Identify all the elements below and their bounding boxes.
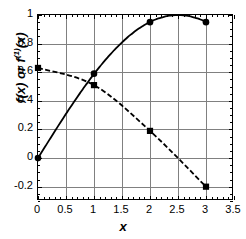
y-tick-label: 0.2 [0, 121, 33, 133]
data-point-marker [35, 155, 42, 162]
data-point-marker [147, 128, 153, 134]
y-axis-label-superscript: (1) [12, 48, 21, 58]
y-tick-label: 1 [0, 7, 33, 19]
axis-tick [234, 15, 235, 19]
axis-tick [230, 201, 233, 202]
curve-f [38, 15, 206, 158]
x-tick-label: 3.5 [213, 203, 246, 215]
y-tick-label: 0.4 [0, 93, 33, 105]
plot-area [37, 14, 233, 200]
axis-tick [38, 201, 41, 202]
y-tick-label: 0.6 [0, 64, 33, 76]
data-point-marker [203, 19, 210, 26]
data-point-marker [91, 70, 98, 77]
x-axis-label: x [0, 219, 246, 234]
data-point-marker [203, 184, 209, 190]
curve-f-derivative [38, 68, 206, 187]
y-tick-label: 0 [0, 150, 33, 162]
data-point-marker [147, 19, 154, 26]
data-curves [38, 15, 234, 201]
data-point-marker [35, 65, 41, 71]
data-point-marker [91, 82, 97, 88]
y-tick-label: 0.8 [0, 36, 33, 48]
chart-figure: f(x) or f(1)(x) x 00.511.522.533.5 10.80… [0, 0, 246, 239]
axis-tick [234, 196, 235, 200]
y-tick-label: -0.2 [0, 179, 33, 191]
